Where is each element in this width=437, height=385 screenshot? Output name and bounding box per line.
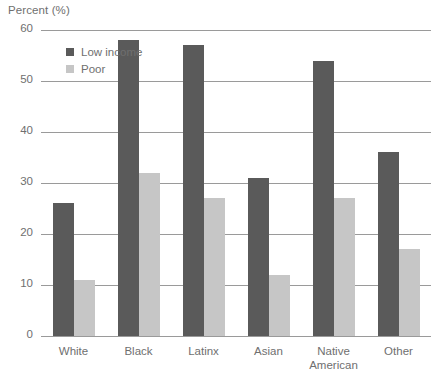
bar [313, 61, 334, 336]
y-tick-label-20: 20 [0, 226, 33, 238]
x-axis-label: Other [366, 344, 431, 372]
x-axis-labels: WhiteBlackLatinxAsianNativeAmericanOther [41, 344, 431, 372]
x-axis-label-line: American [301, 358, 366, 372]
bar-group [301, 30, 366, 336]
bar [139, 173, 160, 336]
y-tick-label-50: 50 [0, 73, 33, 85]
x-axis-label: White [41, 344, 106, 372]
bar [248, 178, 269, 336]
legend-item: Poor [66, 61, 142, 76]
bar [399, 249, 420, 336]
y-tick-label-0: 0 [0, 328, 33, 340]
x-axis-label-line: Other [366, 344, 431, 358]
x-axis-label-line: White [41, 344, 106, 358]
y-tick-label-60: 60 [0, 22, 33, 34]
x-axis-label: Latinx [171, 344, 236, 372]
bar [183, 45, 204, 336]
bar-group [236, 30, 301, 336]
x-axis-label-line: Asian [236, 344, 301, 358]
x-axis-label: Asian [236, 344, 301, 372]
bar-group [171, 30, 236, 336]
x-axis-label: Black [106, 344, 171, 372]
legend-item: Low income [66, 44, 142, 59]
bar [204, 198, 225, 336]
bar [74, 280, 95, 336]
legend-swatch-icon [66, 48, 74, 56]
bar [53, 203, 74, 336]
x-axis-label-line: Latinx [171, 344, 236, 358]
legend-swatch-icon [66, 65, 74, 73]
bar-group [366, 30, 431, 336]
bar-chart: Percent (%) 0102030405060 WhiteBlackLati… [0, 0, 437, 385]
x-axis-baseline [41, 336, 431, 337]
y-axis-title: Percent (%) [8, 4, 70, 16]
x-axis-label-line: Native [301, 344, 366, 358]
y-tick-label-10: 10 [0, 277, 33, 289]
x-axis-label: NativeAmerican [301, 344, 366, 372]
bar [269, 275, 290, 336]
bar [118, 40, 139, 336]
y-tick-label-40: 40 [0, 124, 33, 136]
x-axis-label-line: Black [106, 344, 171, 358]
legend-item-label: Poor [81, 63, 105, 75]
bar [378, 152, 399, 336]
bar [334, 198, 355, 336]
chart-legend: Low incomePoor [66, 44, 142, 78]
y-tick-label-30: 30 [0, 175, 33, 187]
legend-item-label: Low income [81, 46, 142, 58]
